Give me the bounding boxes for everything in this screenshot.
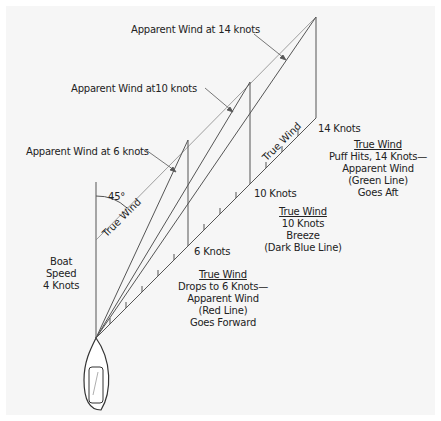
boat-cockpit-icon bbox=[89, 367, 103, 403]
label-14-knots: 14 Knots bbox=[318, 123, 360, 135]
label-45-deg: 45° bbox=[108, 191, 125, 203]
note-6-knots: True Wind Drops to 6 Knots—Apparent Wind… bbox=[178, 269, 268, 329]
label-apparent-6: Apparent Wind at 6 knots bbox=[26, 146, 149, 158]
label-apparent-10: Apparent Wind at10 knots bbox=[71, 83, 197, 95]
note-14-knots: True Wind Puff Hits, 14 Knots—Apparent W… bbox=[328, 139, 428, 199]
note-10-knots: True Wind 10 KnotsBreeze (Dark Blue Line… bbox=[258, 206, 348, 254]
diagram-canvas: Apparent Wind at 14 knots Apparent Wind … bbox=[6, 6, 435, 415]
label-10-knots: 10 Knots bbox=[254, 188, 296, 200]
label-boat-speed: BoatSpeed4 Knots bbox=[43, 256, 79, 292]
label-6-knots: 6 Knots bbox=[194, 246, 230, 258]
wind-vector-drawing bbox=[0, 0, 441, 421]
label-apparent-14: Apparent Wind at 14 knots bbox=[131, 24, 260, 36]
